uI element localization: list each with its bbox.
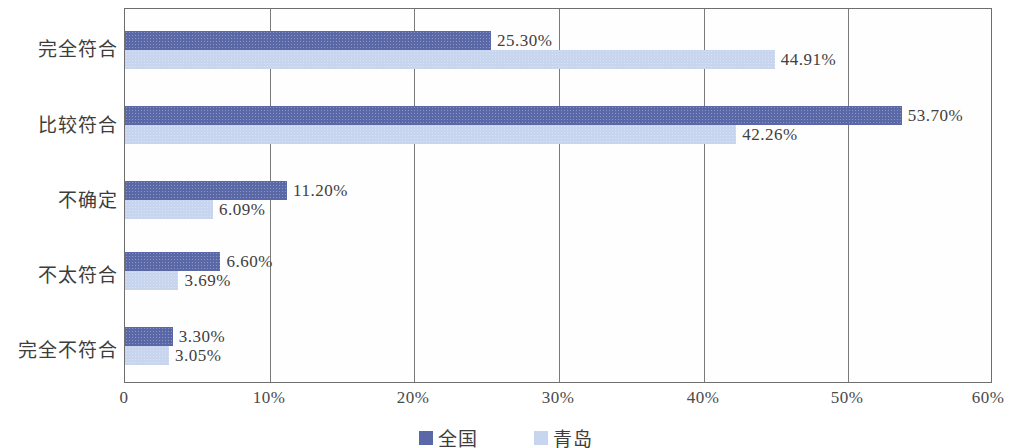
legend-swatch-icon-national — [419, 431, 433, 445]
bar-label-national-4: 3.30% — [179, 327, 225, 346]
y-axis-label-2: 不确定 — [0, 185, 118, 212]
bar-label-local-4: 3.05% — [175, 346, 221, 365]
legend-swatch-icon-local — [534, 431, 548, 445]
legend-item-local: 青岛 — [534, 424, 593, 448]
bar-local-0 — [125, 50, 775, 69]
x-tick-30: 30% — [542, 388, 575, 408]
x-tick-40: 40% — [687, 388, 720, 408]
y-axis-label-1: 比较符合 — [0, 110, 118, 137]
bar-label-national-2: 11.20% — [293, 181, 348, 200]
x-tick-60: 60% — [972, 388, 1005, 408]
bar-label-national-0: 25.30% — [497, 31, 552, 50]
plot-area: 25.30% 44.91% 53.70% 42.26% 11.20% 6.09%… — [124, 8, 992, 383]
bar-local-1 — [125, 125, 736, 144]
bar-label-national-3: 6.60% — [226, 252, 272, 271]
bar-national-1 — [125, 106, 902, 125]
gridline-50 — [848, 9, 849, 382]
legend: 全国 青岛 — [0, 424, 1012, 448]
legend-label-national: 全国 — [438, 424, 478, 448]
y-axis-label-0: 完全符合 — [0, 34, 118, 61]
bar-label-national-1: 53.70% — [908, 106, 963, 125]
x-tick-10: 10% — [253, 388, 286, 408]
bar-national-3 — [125, 252, 220, 271]
legend-label-local: 青岛 — [553, 424, 593, 448]
bar-national-2 — [125, 181, 287, 200]
x-tick-0: 0 — [120, 388, 129, 408]
y-axis-label-4: 完全不符合 — [0, 335, 118, 362]
bar-national-0 — [125, 31, 491, 50]
bar-national-4 — [125, 327, 173, 346]
bar-label-local-3: 3.69% — [184, 271, 230, 290]
bar-label-local-2: 6.09% — [219, 200, 265, 219]
bar-chart: 完全符合 比较符合 不确定 不太符合 完全不符合 25.30% 44.91% 5… — [0, 0, 1012, 448]
bar-local-3 — [125, 271, 178, 290]
bar-local-2 — [125, 200, 213, 219]
x-tick-50: 50% — [831, 388, 864, 408]
x-tick-20: 20% — [397, 388, 430, 408]
bar-local-4 — [125, 346, 169, 365]
bar-label-local-0: 44.91% — [781, 50, 836, 69]
legend-item-national: 全国 — [419, 424, 478, 448]
bar-label-local-1: 42.26% — [742, 125, 797, 144]
y-axis-label-3: 不太符合 — [0, 260, 118, 287]
